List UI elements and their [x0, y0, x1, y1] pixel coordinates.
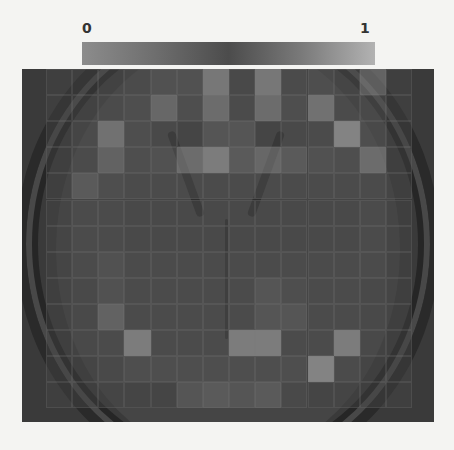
heatmap-cell [229, 304, 255, 330]
heatmap-cell [255, 278, 281, 304]
heatmap-cell [255, 304, 281, 330]
heatmap-cell [360, 147, 386, 173]
heatmap-cell [46, 200, 72, 226]
heatmap-cell [46, 382, 72, 408]
heatmap-cell [151, 304, 177, 330]
heatmap-cell [46, 95, 72, 121]
heatmap-cell [281, 173, 307, 199]
heatmap-cell [308, 278, 334, 304]
heatmap-cell [308, 69, 334, 95]
heatmap-cell [46, 252, 72, 278]
heatmap-cell [334, 69, 360, 95]
heatmap-cell [46, 356, 72, 382]
heatmap-cell [203, 69, 229, 95]
heatmap-cell [386, 278, 412, 304]
heatmap-cell [229, 173, 255, 199]
heatmap-cell [255, 95, 281, 121]
heatmap-cell [281, 69, 307, 95]
heatmap-cell [360, 95, 386, 121]
heatmap-cell [124, 69, 150, 95]
heatmap-cell [72, 147, 98, 173]
heatmap-cell [360, 304, 386, 330]
heatmap-cell [72, 382, 98, 408]
heatmap-cell [72, 356, 98, 382]
heatmap-cell [334, 121, 360, 147]
heatmap-cell [98, 330, 124, 356]
heatmap-cell [281, 330, 307, 356]
heatmap-cell [360, 330, 386, 356]
heatmap-cell [386, 121, 412, 147]
heatmap-cell [203, 330, 229, 356]
heatmap-cell [255, 330, 281, 356]
heatmap-cell [229, 356, 255, 382]
heatmap-cell [281, 252, 307, 278]
heatmap-cell [360, 226, 386, 252]
heatmap-cell [229, 95, 255, 121]
heatmap-cell [308, 304, 334, 330]
heatmap-cell [151, 252, 177, 278]
heatmap-cell [151, 121, 177, 147]
heatmap-cell [386, 147, 412, 173]
heatmap-cell [177, 121, 203, 147]
heatmap-cell [360, 200, 386, 226]
heatmap-cell [203, 278, 229, 304]
heatmap-cell [360, 278, 386, 304]
heatmap-cell [124, 226, 150, 252]
heatmap-cell [334, 252, 360, 278]
heatmap-cell [229, 330, 255, 356]
heatmap-cell [255, 200, 281, 226]
heatmap-cell [360, 69, 386, 95]
heatmap-cell [229, 382, 255, 408]
heatmap-cell [281, 382, 307, 408]
heatmap-cell [255, 173, 281, 199]
heatmap-cell [203, 173, 229, 199]
heatmap-cell [98, 356, 124, 382]
heatmap-cell [98, 278, 124, 304]
heatmap-cell [124, 356, 150, 382]
heatmap-cell [98, 69, 124, 95]
heatmap-cell [308, 356, 334, 382]
heatmap-cell [46, 226, 72, 252]
heatmap-cell [203, 252, 229, 278]
heatmap-cell [98, 95, 124, 121]
heatmap-cell [72, 69, 98, 95]
heatmap-cell [334, 278, 360, 304]
heatmap-cell [203, 121, 229, 147]
heatmap-cell [46, 173, 72, 199]
heatmap-cell [151, 356, 177, 382]
heatmap-cell [229, 69, 255, 95]
heatmap-cell [151, 173, 177, 199]
heatmap-cell [281, 304, 307, 330]
heatmap-cell [46, 69, 72, 95]
heatmap-cell [386, 173, 412, 199]
heatmap-cell [386, 330, 412, 356]
colorbar [82, 42, 375, 65]
heatmap-cell [386, 69, 412, 95]
heatmap-cell [203, 356, 229, 382]
heatmap-cell [124, 304, 150, 330]
heatmap-cell [229, 200, 255, 226]
heatmap-cell [255, 252, 281, 278]
heatmap-cell [255, 226, 281, 252]
heatmap-cell [151, 200, 177, 226]
heatmap-cell [72, 278, 98, 304]
heatmap-cell [46, 278, 72, 304]
heatmap-cell [334, 304, 360, 330]
heatmap-cell [386, 200, 412, 226]
heatmap-cell [386, 252, 412, 278]
heatmap-cell [151, 330, 177, 356]
heatmap-cell [334, 226, 360, 252]
heatmap-cell [98, 121, 124, 147]
heatmap-cell [386, 95, 412, 121]
heatmap-cell [308, 173, 334, 199]
heatmap-cell [98, 226, 124, 252]
heatmap-cell [177, 382, 203, 408]
heatmap-cell [308, 147, 334, 173]
heatmap-cell [334, 147, 360, 173]
heatmap-cell [72, 95, 98, 121]
heatmap-cell [308, 252, 334, 278]
heatmap-cell [229, 278, 255, 304]
heatmap-cell [203, 200, 229, 226]
heatmap-cell [177, 69, 203, 95]
heatmap-cell [151, 147, 177, 173]
